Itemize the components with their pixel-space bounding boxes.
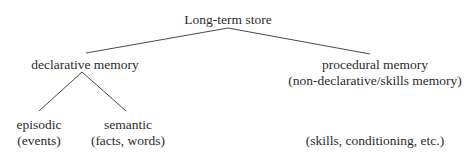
edge-declarative-semantic — [82, 72, 126, 111]
node-sublabel: (events) — [17, 133, 62, 149]
edge-declarative-episodic — [39, 72, 82, 111]
node-label: procedural memory — [288, 57, 462, 73]
node-sublabel: (non-declarative/skills memory) — [288, 73, 462, 89]
node-sublabel: (facts, words) — [91, 133, 165, 149]
node-declarative-memory: declarative memory — [31, 57, 139, 73]
edge-root-declarative — [86, 28, 228, 53]
node-label: (skills, conditioning, etc.) — [306, 133, 444, 149]
node-label: semantic — [91, 117, 165, 133]
node-procedural-examples: (skills, conditioning, etc.) — [306, 133, 444, 149]
node-label: episodic — [17, 117, 62, 133]
edge-root-procedural — [228, 28, 370, 54]
node-long-term-store: Long-term store — [184, 12, 271, 28]
node-episodic: episodic (events) — [17, 117, 62, 149]
memory-tree-diagram: Long-term store declarative memory proce… — [0, 0, 471, 160]
node-label: Long-term store — [184, 12, 271, 28]
node-label: declarative memory — [31, 57, 139, 73]
node-procedural-memory: procedural memory (non-declarative/skill… — [288, 57, 462, 89]
node-semantic: semantic (facts, words) — [91, 117, 165, 149]
